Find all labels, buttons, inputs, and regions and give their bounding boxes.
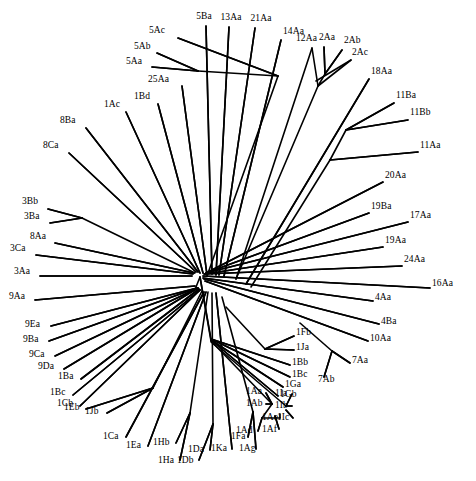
leaf-branch-8Ba bbox=[86, 128, 198, 272]
leaf-label-1Bc: 1Bc bbox=[50, 388, 66, 398]
leaf-label-1Ia: 1Ia bbox=[275, 389, 287, 399]
leaf-branch-5Ba bbox=[206, 26, 212, 274]
leaf-label-5Ba: 5Ba bbox=[196, 12, 212, 22]
leaf-label-1Db: 1Db bbox=[177, 456, 194, 466]
leaf-label-1Ad: 1Ad bbox=[236, 426, 253, 436]
leaf-label-19Aa: 19Aa bbox=[385, 236, 406, 246]
leader-line-layer bbox=[35, 26, 430, 460]
leaf-label-1Cb: 1Cb bbox=[57, 399, 73, 409]
leaf-branch-1Ca bbox=[126, 292, 204, 437]
leaf-label-3Bb: 3Bb bbox=[22, 197, 38, 207]
leaf-branch-1Bc bbox=[73, 290, 200, 395]
leaf-label-1Ib: 1Ib bbox=[275, 401, 288, 411]
leaf-label-3Aa: 3Aa bbox=[14, 267, 30, 277]
leaf-label-5Aa: 5Aa bbox=[126, 57, 142, 67]
leaf-branch-20Aa bbox=[208, 182, 383, 272]
leaf-label-1Fb: 1Fb bbox=[296, 328, 311, 338]
leaf-label-24Aa: 24Aa bbox=[404, 255, 425, 265]
leaf-label-2Aa: 2Aa bbox=[319, 33, 335, 43]
leaf-label-19Ba: 19Ba bbox=[371, 202, 391, 212]
leaf-branch-8Ca bbox=[69, 153, 196, 272]
tree-branch bbox=[236, 86, 318, 279]
leaf-label-2Ab: 2Ab bbox=[344, 36, 361, 46]
leaf-branch-7Aa bbox=[332, 351, 350, 363]
leaf-branch-1Ka bbox=[216, 293, 232, 449]
tree-branch bbox=[251, 160, 330, 287]
leaf-branch-3Ca bbox=[36, 255, 193, 274]
phylogenetic-tree-figure: 5Ac5Ba13Aa21Aa14Aa12Aa2Aa2Ab2Ac5Ab5Aa25A… bbox=[0, 0, 476, 481]
leaf-branch-25Aa bbox=[182, 86, 207, 275]
leaf-label-9Aa: 9Aa bbox=[9, 292, 25, 302]
leaf-label-1Ac: 1Ac bbox=[104, 100, 120, 110]
leaf-label-1Af: 1Af bbox=[262, 425, 277, 435]
leaf-label-1Ha: 1Ha bbox=[158, 456, 174, 466]
leaf-label-1Ae: 1Ae bbox=[262, 413, 278, 423]
leaf-label-8Aa: 8Aa bbox=[30, 232, 46, 242]
leaf-branch-3Ba bbox=[50, 218, 82, 223]
leaf-label-8Ba: 8Ba bbox=[60, 116, 76, 126]
tree-branch bbox=[212, 293, 213, 424]
leaf-label-9Da: 9Da bbox=[38, 362, 54, 372]
leaf-label-18Aa: 18Aa bbox=[371, 67, 392, 77]
leaf-branch-1Hb bbox=[176, 413, 190, 443]
leaf-label-1Ab: 1Ab bbox=[246, 399, 263, 409]
leaf-label-9Ea: 9Ea bbox=[25, 320, 40, 330]
leaf-label-1Ic: 1Ic bbox=[277, 413, 289, 423]
leaf-label-11Aa: 11Aa bbox=[420, 141, 441, 151]
leaf-label-13Aa: 13Aa bbox=[221, 13, 242, 23]
tree-branch bbox=[196, 277, 200, 287]
leaf-label-10Aa: 10Aa bbox=[370, 334, 391, 344]
leaf-branch-2Aa bbox=[324, 47, 325, 74]
leaf-label-9Ba: 9Ba bbox=[23, 335, 39, 345]
leaf-label-16Aa: 16Aa bbox=[432, 279, 453, 289]
leaf-label-1Bd: 1Bd bbox=[134, 92, 150, 102]
leaf-label-1Da: 1Da bbox=[188, 445, 204, 455]
leaf-label-21Aa: 21Aa bbox=[251, 14, 272, 24]
leaf-label-1Ja: 1Ja bbox=[296, 343, 309, 353]
leaf-label-11Bb: 11Bb bbox=[410, 108, 431, 118]
leaf-label-1Jb: 1Jb bbox=[85, 407, 99, 417]
leaf-branch-3Bb bbox=[48, 209, 82, 218]
leaf-label-8Ca: 8Ca bbox=[43, 141, 59, 151]
leaf-branch-9Ca bbox=[55, 288, 198, 356]
leaf-branch-19Ba bbox=[206, 213, 369, 273]
leaf-label-5Ac: 5Ac bbox=[149, 26, 165, 36]
leaf-label-7Ab: 7Ab bbox=[318, 375, 335, 385]
tree-branch bbox=[330, 130, 346, 160]
leaf-label-1Ka: 1Ka bbox=[211, 444, 227, 454]
leaf-label-1Aa: 1Aa bbox=[246, 387, 262, 397]
leaf-label-1Ba: 1Ba bbox=[58, 372, 74, 382]
leaf-branch-7Ab bbox=[324, 351, 332, 377]
leaf-branch-4Ba bbox=[204, 279, 379, 324]
leaf-label-12Aa: 12Aa bbox=[296, 34, 317, 44]
leaf-label-3Ca: 3Ca bbox=[10, 244, 26, 254]
leaf-branch-1Fb bbox=[265, 336, 294, 349]
leaf-label-20Aa: 20Aa bbox=[385, 171, 406, 181]
leaf-label-1Ag: 1Ag bbox=[239, 444, 256, 454]
leaf-branch-13Aa bbox=[216, 27, 229, 275]
leaf-label-7Aa: 7Aa bbox=[352, 356, 368, 366]
leaf-branch-11Aa bbox=[330, 152, 418, 160]
leaf-branch-1Ja bbox=[265, 349, 294, 350]
leaf-label-4Ba: 4Ba bbox=[381, 317, 397, 327]
leaf-label-1Hb: 1Hb bbox=[153, 438, 170, 448]
leaf-label-4Aa: 4Aa bbox=[375, 293, 391, 303]
leaf-label-9Ca: 9Ca bbox=[29, 350, 45, 360]
leaf-label-1Bb: 1Bb bbox=[292, 358, 308, 368]
leaf-label-2Ac: 2Ac bbox=[352, 48, 368, 58]
leaf-label-5Ab: 5Ab bbox=[134, 42, 151, 52]
leaf-label-11Ba: 11Ba bbox=[396, 91, 416, 101]
leaf-label-3Ba: 3Ba bbox=[24, 212, 40, 222]
leaf-label-1Ea: 1Ea bbox=[126, 441, 141, 451]
leaf-branch-8Aa bbox=[55, 243, 194, 273]
leaf-label-1Ca: 1Ca bbox=[103, 432, 119, 442]
leaf-label-25Aa: 25Aa bbox=[148, 75, 169, 85]
leaf-label-17Aa: 17Aa bbox=[410, 211, 431, 221]
tree-branch bbox=[226, 307, 265, 349]
